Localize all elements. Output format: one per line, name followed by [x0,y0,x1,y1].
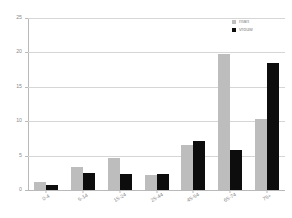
x-axis-tick-label: 15-24 [113,192,127,203]
x-axis-tick-label: 45-54 [186,192,200,203]
x-axis-label-cell: 65-74 [212,192,249,216]
x-axis-label-cell: 5-14 [65,192,102,216]
bar-group [248,18,285,190]
x-axis-tick-label: 25-44 [149,192,163,203]
x-axis-tick-labels: 0-45-1415-2425-4445-5465-7475+ [28,192,285,216]
bar-vrouw-75+ [267,63,279,190]
bar-man-45-54 [181,145,193,190]
x-axis-label-cell: 45-54 [175,192,212,216]
bar-group [212,18,249,190]
bar-vrouw-5-14 [83,173,95,190]
bar-vrouw-45-54 [193,141,205,190]
plot-area [28,18,285,190]
bar-group [101,18,138,190]
bar-vrouw-0-4 [46,185,58,191]
x-axis-label-cell: 25-44 [138,192,175,216]
bar-man-0-4 [34,182,46,190]
legend-item-vrouw: vrouw [232,27,253,32]
bar-vrouw-25-44 [157,174,169,191]
x-axis-tick-label: 75+ [262,193,272,202]
chart-legend: man vrouw [232,19,253,32]
bar-group [28,18,65,190]
x-axis-label-cell: 0-4 [28,192,65,216]
x-axis-label-cell: 75+ [248,192,285,216]
bar-groups [28,18,285,190]
bar-group [138,18,175,190]
y-axis-tick-label: 10 [0,119,22,124]
bar-man-25-44 [145,175,157,190]
y-axis-tick-label: 25 [0,15,22,20]
y-axis-tick-label: 0 [0,187,22,192]
legend-label-vrouw: vrouw [239,27,253,32]
bar-man-15-24 [108,158,120,190]
bar-man-65-74 [218,54,230,190]
legend-label-man: man [239,19,249,24]
x-axis-tick-label: 5-14 [77,193,89,203]
bar-group [175,18,212,190]
bar-group [65,18,102,190]
legend-item-man: man [232,19,253,24]
bar-man-75+ [255,119,267,190]
legend-swatch-vrouw-icon [232,28,236,32]
x-axis-label-cell: 15-24 [101,192,138,216]
y-axis-tick-label: 5 [0,153,22,158]
bar-vrouw-65-74 [230,150,242,190]
x-axis-tick-label: 0-4 [42,193,51,201]
y-axis-tick-label: 15 [0,84,22,89]
y-axis-tickmark [25,190,28,191]
legend-swatch-man-icon [232,20,236,24]
y-axis-tick-label: 20 [0,50,22,55]
x-axis-tick-label: 65-74 [223,192,237,203]
bar-chart: 0510152025 0-45-1415-2425-4445-5465-7475… [0,0,292,218]
bar-vrouw-15-24 [120,174,132,190]
bar-man-5-14 [71,167,83,190]
